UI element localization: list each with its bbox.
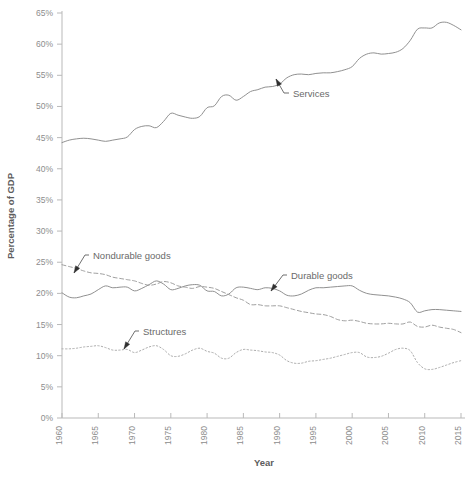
annotation-label-nondurable-goods: Nondurable goods — [93, 250, 171, 261]
y-tick-label: 10% — [36, 351, 53, 361]
series-line-structures — [62, 346, 461, 370]
y-tick-label: 20% — [36, 288, 53, 298]
annotation-label-services: Services — [293, 88, 330, 99]
x-tick-label: 2010 — [417, 426, 427, 445]
y-tick-label: 30% — [36, 226, 53, 236]
y-axis-ticks: 0%5%10%15%20%25%30%35%40%45%50%55%60%65% — [36, 8, 62, 423]
x-axis-title: Year — [254, 457, 274, 468]
y-tick-label: 0% — [41, 413, 54, 423]
x-tick-label: 1980 — [199, 426, 209, 445]
x-tick-label: 2015 — [453, 426, 463, 445]
gdp-composition-line-chart: 0%5%10%15%20%25%30%35%40%45%50%55%60%65%… — [0, 0, 474, 477]
annotation-arrowhead — [124, 342, 130, 349]
y-tick-label: 65% — [36, 8, 53, 18]
x-tick-label: 2005 — [380, 426, 390, 445]
x-tick-label: 1990 — [272, 426, 282, 445]
x-tick-label: 2000 — [344, 426, 354, 445]
y-tick-label: 35% — [36, 195, 53, 205]
annotation-structures: Structures — [124, 326, 187, 349]
x-tick-label: 1995 — [308, 426, 318, 445]
x-tick-label: 1960 — [54, 426, 64, 445]
y-tick-label: 50% — [36, 101, 53, 111]
series-line-services — [62, 22, 461, 142]
series-line-durable-goods — [62, 281, 461, 313]
y-axis: 0%5%10%15%20%25%30%35%40%45%50%55%60%65% — [36, 8, 62, 423]
chart-container: 0%5%10%15%20%25%30%35%40%45%50%55%60%65%… — [0, 0, 474, 477]
y-tick-label: 5% — [41, 382, 54, 392]
y-tick-label: 60% — [36, 39, 53, 49]
x-axis: 1960196519701975198019851990199520002005… — [54, 413, 465, 445]
y-tick-label: 45% — [36, 133, 53, 143]
annotation-nondurable-goods: Nondurable goods — [74, 250, 171, 273]
y-tick-label: 55% — [36, 70, 53, 80]
series-annotations: ServicesNondurable goodsDurable goodsStr… — [74, 79, 353, 349]
y-tick-label: 40% — [36, 164, 53, 174]
x-tick-label: 1985 — [235, 426, 245, 445]
y-tick-label: 15% — [36, 320, 53, 330]
y-axis-title: Percentage of GDP — [5, 172, 16, 259]
x-tick-label: 1965 — [90, 426, 100, 445]
series-lines — [62, 22, 461, 369]
annotation-durable-goods: Durable goods — [271, 270, 353, 291]
y-tick-label: 25% — [36, 257, 53, 267]
annotation-label-durable-goods: Durable goods — [291, 270, 353, 281]
x-tick-label: 1970 — [127, 426, 137, 445]
annotation-label-structures: Structures — [143, 326, 187, 337]
x-tick-label: 1975 — [163, 426, 173, 445]
annotation-services: Services — [276, 79, 330, 99]
